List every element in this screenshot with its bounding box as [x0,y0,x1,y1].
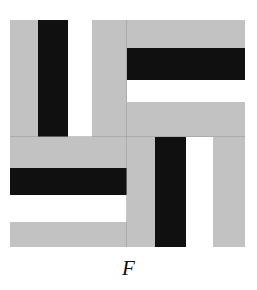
stripe-bottom-right-white [186,137,213,247]
quadrant-bottom-left [10,137,127,247]
stripe-top-left-white [68,20,92,137]
quadrant-top-right [127,20,245,137]
stripe-top-left-gray [92,20,127,137]
stripe-top-left-black [38,20,68,137]
stripe-bottom-left-black [10,168,127,195]
vertical-divider [126,20,127,247]
stripe-top-left-gray [10,20,38,137]
stripe-bottom-right-black [155,137,186,247]
stripe-bottom-right-gray [127,137,155,247]
stripe-top-right-gray [127,20,245,48]
stripe-bottom-left-white [10,195,127,222]
quadrant-top-left [10,20,127,137]
figure-label: F [0,258,257,279]
stripe-bottom-left-gray [10,137,127,168]
stripe-top-right-white [127,80,245,102]
horizontal-divider [10,136,245,137]
figure-canvas: F [0,0,257,290]
quadrant-bottom-right [127,137,245,247]
stripe-bottom-left-gray [10,222,127,247]
stripe-top-right-gray [127,102,245,137]
stripe-bottom-right-gray [213,137,245,247]
quilt-block-figure [10,20,245,247]
stripe-top-right-black [127,48,245,80]
